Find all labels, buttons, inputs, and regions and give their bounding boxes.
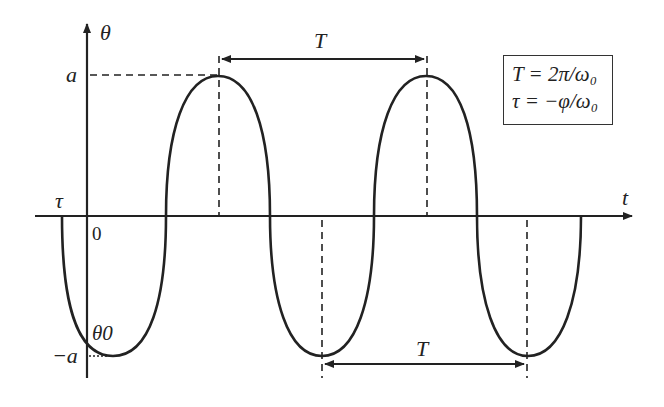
initial-value-label: θ0 [92,321,113,345]
theta-axis-label: θ [100,20,111,45]
period-formula: T = 2π/ω₀ [512,61,612,88]
tau-label: τ [55,188,64,213]
t-axis-label: t [622,185,629,210]
shift-formula: τ = −φ/ω₀ [512,88,612,115]
formula-box: T = 2π/ω₀ τ = −φ/ω₀ [503,55,613,125]
period-label-top: T [314,28,328,53]
origin-label: 0 [92,223,102,244]
amplitude-label: a [66,62,77,87]
neg-amplitude-label: −a [52,343,78,368]
period-label-bottom: T [416,336,430,361]
